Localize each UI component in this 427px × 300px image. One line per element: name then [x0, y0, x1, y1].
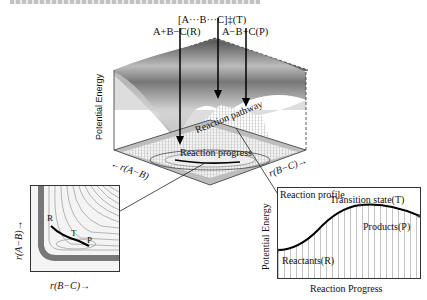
transition-state-label: [A···B···C]‡(T): [178, 15, 246, 26]
reaction-profile-panel: Reaction profile Transition state(T) Pro…: [277, 187, 421, 279]
contour-point-r: R: [47, 214, 53, 223]
contour-point-t: T: [71, 229, 77, 238]
transition-state-text: Transition state(T): [330, 195, 404, 205]
products-text: Products(P): [363, 222, 410, 232]
reaction-progress-label: Reaction progress: [180, 148, 252, 158]
products-label: A−B+C(P): [222, 27, 268, 38]
contour-y-axis-label: r(A−B)→: [14, 220, 24, 260]
contour-plot-panel: R T P: [30, 185, 120, 272]
surface-y-axis-label: Potential Energy: [95, 74, 104, 140]
contour-point-p: P: [87, 236, 92, 245]
contour-x-axis-label: r(B−C)→: [50, 281, 90, 291]
profile-y-axis-label: Potential Energy: [261, 203, 271, 270]
reactants-label: A+B−C(R): [153, 27, 200, 38]
reactants-text: Reactants(R): [282, 256, 334, 266]
profile-x-axis-label: Reaction Progress: [310, 284, 383, 294]
